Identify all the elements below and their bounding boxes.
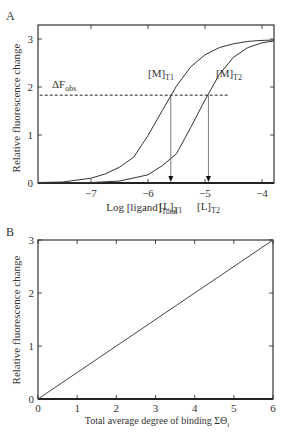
x-tick-label: −5 [199,187,211,199]
x-tick-label: −6 [142,187,154,199]
x-tick-label: 0 [35,402,41,414]
m-t1-label: [M]T1 [148,67,174,82]
y-axis-label-b: Relative fluorescence change [10,255,22,384]
x-tick-label: −4 [256,187,268,199]
x-tick-label: 1 [74,402,80,414]
x-axis-label-b: Total average degree of binding ΣΘi [85,415,230,429]
panel-b: B 0123 0123456 Relative fluorescence cha… [6,225,276,429]
y-tick-label: 1 [29,340,35,352]
x-tick-label: 4 [192,402,198,414]
arrow-down-icon [206,176,211,182]
y-axis-label-a: Relative fluorescence change [10,43,22,172]
x-tick-label: 2 [114,402,120,414]
y-tick-label: 1 [28,129,34,141]
l-t2-label: [L]T2 [197,200,220,215]
y-axis-ticks-b: 0123 [29,234,274,405]
delta-f-obs-label: ΔFobs [52,78,76,93]
y-tick-label: 0 [28,177,34,189]
annotations-a: ΔFobs[L]T1[L]T2[M]T1[M]T2 [40,67,242,215]
curve-t2 [38,41,274,183]
x-tick-label: 6 [270,402,276,414]
panel-a: A 0123 −7−6−5−4 ΔFobs[L]T1[L]T2[M]T1[M]T… [6,9,274,216]
panel-b-label: B [6,225,14,239]
y-axis-ticks-a: 0123 [28,33,275,189]
curves-a [38,40,274,183]
x-axis-ticks-a: −7−6−5−4 [85,25,268,199]
y-tick-label: 0 [29,393,35,405]
figure: A 0123 −7−6−5−4 ΔFobs[L]T1[L]T2[M]T1[M]T… [0,0,289,440]
y-tick-label: 2 [29,287,35,299]
m-t2-label: [M]T2 [216,67,242,82]
x-axis-ticks-b: 0123456 [35,240,276,414]
y-tick-label: 3 [28,33,34,45]
panel-a-label: A [6,9,15,23]
line-b [38,240,273,399]
x-tick-label: 5 [231,402,237,414]
y-tick-label: 2 [28,81,34,93]
curve-t1 [38,40,274,183]
plot-frame-a [38,25,274,183]
x-tick-label: −7 [85,187,97,199]
x-tick-label: 3 [153,402,159,414]
y-tick-label: 3 [29,234,35,246]
arrow-down-icon [168,176,173,182]
linear-line [38,240,273,399]
